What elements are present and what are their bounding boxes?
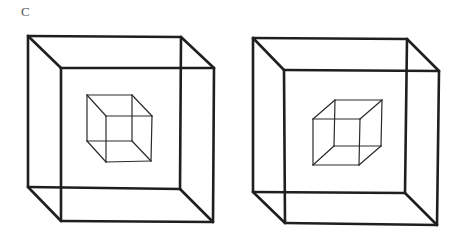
depth-edge bbox=[253, 38, 284, 70]
back-face-edge bbox=[28, 187, 180, 189]
front-face-edge bbox=[359, 119, 360, 165]
depth-edge bbox=[405, 193, 437, 225]
depth-edge bbox=[132, 141, 151, 161]
depth-edge bbox=[87, 141, 106, 162]
depth-edge bbox=[313, 100, 335, 119]
back-face-edge bbox=[253, 38, 407, 39]
front-face-edge bbox=[61, 221, 213, 222]
depth-edge bbox=[359, 146, 381, 165]
depth-edge bbox=[180, 189, 213, 222]
back-face-edge bbox=[405, 39, 407, 193]
front-face-edge bbox=[284, 70, 285, 223]
back-face-edge bbox=[180, 37, 181, 189]
front-face-edge bbox=[151, 116, 152, 161]
depth-edge bbox=[87, 95, 106, 116]
depth-edge bbox=[181, 37, 214, 68]
depth-edge bbox=[253, 192, 285, 223]
depth-edge bbox=[407, 39, 439, 71]
front-face-edge bbox=[284, 70, 439, 71]
back-face-edge bbox=[334, 100, 335, 146]
front-face-edge bbox=[285, 223, 437, 225]
depth-edge bbox=[132, 95, 152, 116]
back-face-edge bbox=[381, 100, 382, 146]
back-face-edge bbox=[253, 192, 405, 193]
depth-edge bbox=[28, 36, 61, 68]
depth-edge bbox=[360, 100, 382, 119]
depth-edge bbox=[28, 187, 61, 221]
front-face-edge bbox=[106, 161, 151, 162]
front-face-edge bbox=[437, 71, 439, 225]
right-cube-group bbox=[253, 38, 439, 225]
nested-cubes-figure bbox=[0, 0, 461, 237]
front-face-edge bbox=[213, 68, 214, 222]
right-inner-cube bbox=[313, 100, 382, 165]
back-face-edge bbox=[28, 36, 181, 37]
left-outer-cube bbox=[28, 36, 214, 222]
left-cube-group bbox=[28, 36, 214, 222]
depth-edge bbox=[313, 146, 334, 165]
left-inner-cube bbox=[87, 95, 152, 162]
right-outer-cube bbox=[253, 38, 439, 225]
